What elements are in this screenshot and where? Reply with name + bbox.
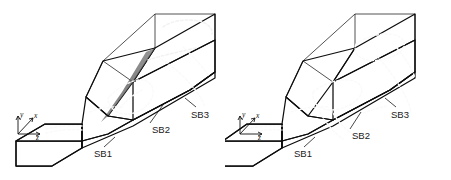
axis-label-z: z — [257, 133, 261, 142]
axis-label-x: x — [255, 111, 260, 120]
wedge-body — [282, 14, 415, 148]
leader-sb3 — [185, 98, 196, 107]
axis-triad: y x z — [238, 110, 262, 142]
right-block-diagram: y x z SB1 SB2 SB3 — [225, 0, 451, 180]
figure-root: y x z SB1 SB2 SB3 — [0, 0, 451, 180]
leader-sb1 — [304, 137, 315, 147]
axis-label-y: y — [19, 110, 24, 119]
label-sb2: SB2 — [352, 130, 370, 141]
left-block-diagram: y x z SB1 SB2 SB3 — [0, 0, 226, 180]
axis-triad: y x z — [16, 110, 40, 142]
axis-label-x: x — [33, 111, 38, 120]
label-sb1: SB1 — [94, 148, 112, 159]
dashed-marker-curves — [247, 34, 415, 139]
label-sb3: SB3 — [391, 109, 409, 120]
leader-sb1 — [104, 137, 115, 147]
label-sb1: SB1 — [294, 148, 312, 159]
label-sb3: SB3 — [191, 109, 209, 120]
label-sb2: SB2 — [152, 124, 170, 135]
axis-label-z: z — [35, 133, 39, 142]
axis-label-y: y — [241, 110, 246, 119]
wedge-body — [82, 14, 215, 148]
